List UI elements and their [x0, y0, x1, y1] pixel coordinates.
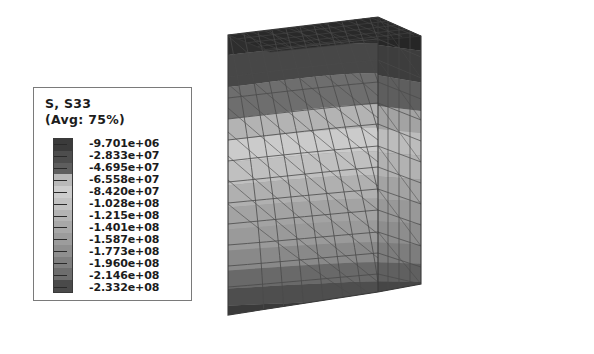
- colorbar-tick-10: [54, 263, 67, 264]
- colorbar-tick-9: [54, 251, 67, 252]
- colorbar-label-3: -6.558e+07: [89, 174, 159, 185]
- colorbar-tick-0: [54, 144, 67, 145]
- colorbar-label-2: -4.695e+07: [89, 162, 159, 173]
- colorbar-label-8: -1.587e+08: [89, 234, 159, 245]
- colorbar-ticks: [53, 138, 67, 293]
- colorbar-labels: -9.701e+06-2.833e+07-4.695e+07-6.558e+07…: [89, 131, 189, 303]
- colorbar-tick-1: [54, 156, 67, 157]
- colorbar-tick-2: [54, 168, 67, 169]
- colorbar-label-11: -2.146e+08: [89, 270, 159, 281]
- colorbar-label-12: -2.332e+08: [89, 282, 159, 293]
- viewport: S, S33 (Avg: 75%) -9.701e+06-2.833e+07-4…: [0, 0, 594, 354]
- colorbar-label-9: -1.773e+08: [89, 246, 159, 257]
- colorbar-label-0: -9.701e+06: [89, 138, 159, 149]
- colorbar-tick-5: [54, 204, 67, 205]
- contour-legend: S, S33 (Avg: 75%) -9.701e+06-2.833e+07-4…: [33, 87, 192, 301]
- colorbar-label-6: -1.215e+08: [89, 210, 159, 221]
- colorbar-tick-11: [54, 275, 67, 276]
- colorbar-label-10: -1.960e+08: [89, 258, 159, 269]
- colorbar-label-4: -8.420e+07: [89, 186, 159, 197]
- colorbar-tick-6: [54, 216, 67, 217]
- colorbar-tick-8: [54, 239, 67, 240]
- colorbar-tick-3: [54, 180, 67, 181]
- stress-contour-cube: [200, 0, 440, 340]
- colorbar-label-7: -1.401e+08: [89, 222, 159, 233]
- legend-title: S, S33: [45, 96, 91, 111]
- colorbar-tick-7: [54, 227, 67, 228]
- legend-average-label: (Avg: 75%): [45, 112, 125, 127]
- colorbar-label-5: -1.028e+08: [89, 198, 159, 209]
- colorbar-tick-12: [54, 287, 67, 288]
- colorbar-tick-4: [54, 192, 67, 193]
- colorbar-label-1: -2.833e+07: [89, 150, 159, 161]
